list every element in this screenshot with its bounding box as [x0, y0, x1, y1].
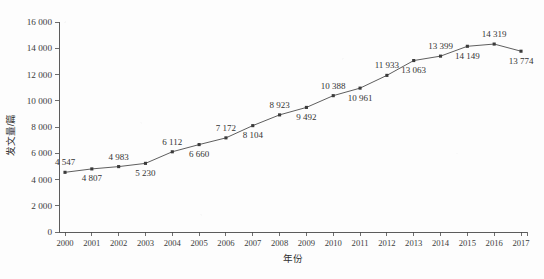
- data-point-label: 5 230: [135, 168, 156, 178]
- y-tick-label: 8 000: [31, 122, 52, 132]
- x-tick-label: 2012: [378, 238, 395, 248]
- data-point-label: 10 961: [348, 93, 373, 103]
- data-point-label: 8 923: [269, 100, 290, 110]
- data-point-marker: [278, 113, 281, 116]
- data-point-markers: [63, 43, 522, 174]
- data-point-label: 9 492: [296, 112, 316, 122]
- data-point-label: 6 660: [189, 149, 210, 159]
- data-point-marker: [224, 136, 227, 139]
- x-tick-label: 2004: [164, 238, 182, 248]
- x-tick-label: 2011: [352, 238, 369, 248]
- data-point-marker: [117, 165, 120, 168]
- data-point-label: 11 933: [375, 60, 400, 70]
- x-tick-label: 2000: [56, 238, 73, 248]
- x-axis-title: 年份: [283, 253, 303, 264]
- data-point-marker: [332, 94, 335, 97]
- y-tick-label: 6 000: [31, 148, 52, 158]
- x-tick-label: 2014: [432, 238, 450, 248]
- x-tick-label: 2010: [325, 238, 342, 248]
- y-axis-tick-group: 02 0004 0006 0008 00010 00012 00014 0001…: [27, 17, 59, 237]
- data-point-marker: [439, 55, 442, 58]
- x-tick-label: 2003: [137, 238, 154, 248]
- data-point-marker: [63, 171, 66, 174]
- y-tick-label: 14 000: [27, 43, 53, 53]
- x-tick-label: 2006: [217, 238, 235, 248]
- data-point-marker: [493, 43, 496, 46]
- data-point-label: 14 319: [482, 29, 507, 39]
- y-axis-title: 发文量/篇: [5, 114, 16, 157]
- data-point-marker: [171, 150, 174, 153]
- x-tick-label: 2007: [244, 238, 262, 248]
- x-tick-label: 2013: [405, 238, 422, 248]
- y-tick-label: 4 000: [31, 175, 52, 185]
- data-point-marker: [251, 124, 254, 127]
- data-point-label: 7 172: [216, 123, 236, 133]
- data-point-marker: [412, 59, 415, 62]
- data-point-label: 6 112: [162, 137, 182, 147]
- data-point-marker: [305, 106, 308, 109]
- data-point-label: 13 774: [509, 56, 534, 66]
- data-point-marker: [144, 162, 147, 165]
- figure-container: 02 0004 0006 0008 00010 00012 00014 0001…: [0, 0, 544, 279]
- data-point-marker: [466, 45, 469, 48]
- data-point-label: 4 547: [55, 157, 76, 167]
- x-axis-tick-group: 2000200120022003200420052006200720082009…: [56, 232, 530, 248]
- y-tick-label: 0: [47, 227, 52, 237]
- x-tick-label: 2001: [83, 238, 100, 248]
- data-point-marker: [90, 167, 93, 170]
- data-point-marker: [385, 74, 388, 77]
- data-point-label: 13 063: [401, 65, 426, 75]
- data-point-label: 4 807: [82, 173, 103, 183]
- data-point-label: 8 104: [243, 130, 264, 140]
- line-chart: 02 0004 0006 0008 00010 00012 00014 0001…: [0, 0, 544, 279]
- y-tick-label: 16 000: [27, 17, 53, 27]
- x-tick-label: 2008: [271, 238, 288, 248]
- y-tick-label: 10 000: [27, 96, 53, 106]
- x-tick-label: 2009: [298, 238, 315, 248]
- x-tick-label: 2017: [512, 238, 530, 248]
- x-tick-label: 2016: [486, 238, 504, 248]
- data-point-marker: [519, 50, 522, 53]
- data-point-label: 13 399: [428, 41, 453, 51]
- x-tick-label: 2015: [459, 238, 476, 248]
- data-point-labels: 4 5474 8074 9835 2306 1126 6607 1728 104…: [55, 29, 534, 183]
- y-tick-label: 12 000: [27, 70, 53, 80]
- x-tick-label: 2005: [191, 238, 208, 248]
- data-point-marker: [198, 143, 201, 146]
- data-point-label: 14 149: [455, 51, 480, 61]
- data-point-label: 4 983: [109, 152, 130, 162]
- data-series-line: [65, 44, 521, 172]
- y-tick-label: 2 000: [31, 201, 52, 211]
- x-tick-label: 2002: [110, 238, 127, 248]
- data-point-label: 10 388: [321, 81, 346, 91]
- data-point-marker: [359, 87, 362, 90]
